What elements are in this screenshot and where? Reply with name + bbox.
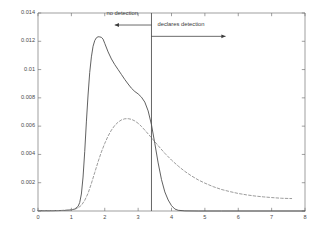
x-tick-label: 3 <box>128 215 148 221</box>
data-series-group <box>38 37 305 211</box>
x-tick-label: 2 <box>95 215 115 221</box>
x-tick-label: 5 <box>195 215 215 221</box>
declares-detection-label: declares detection <box>157 22 204 28</box>
x-tick-label: 4 <box>162 215 182 221</box>
solid-curve <box>38 37 305 211</box>
y-tick-label: 0 <box>32 208 35 214</box>
chart-figure: 00.0020.0040.0060.0080.010.0120.014 0123… <box>0 0 323 234</box>
y-tick-label: 0.014 <box>21 10 35 16</box>
no-detection-label: no detection <box>106 11 138 17</box>
x-tick-label: 8 <box>295 215 315 221</box>
chart-canvas <box>0 0 323 234</box>
x-tick-label: 0 <box>28 215 48 221</box>
y-tick-label: 0.01 <box>24 67 35 73</box>
dashed-curve <box>38 119 292 211</box>
plot-border <box>38 13 305 211</box>
annotation-arrow-head <box>221 34 225 38</box>
x-tick-label: 6 <box>228 215 248 221</box>
y-tick-label: 0.008 <box>21 95 35 101</box>
y-tick-label: 0.002 <box>21 180 35 186</box>
axes-frame <box>38 13 305 211</box>
y-tick-label: 0.006 <box>21 123 35 129</box>
x-tick-label: 1 <box>61 215 81 221</box>
y-tick-label: 0.012 <box>21 38 35 44</box>
axis-ticks <box>38 13 305 211</box>
annotation-arrow-head <box>115 23 119 27</box>
y-tick-label: 0.004 <box>21 151 35 157</box>
x-tick-label: 7 <box>262 215 282 221</box>
